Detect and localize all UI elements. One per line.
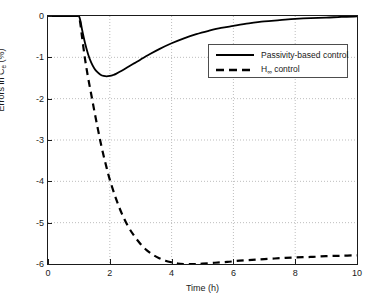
x-tick-label: 2 xyxy=(107,268,112,278)
y-tick-mark xyxy=(47,16,52,17)
legend-label-hinf: H∞ control xyxy=(261,64,300,75)
x-tick-mark xyxy=(110,259,111,264)
legend-label-passivity: Passivity-based control xyxy=(261,50,348,60)
x-tick-label: 8 xyxy=(293,268,298,278)
y-tick-mark xyxy=(47,264,52,265)
y-tick-mark xyxy=(47,99,52,100)
x-axis-label: Time (h) xyxy=(47,283,358,293)
y-axis-label: Errors in Ce (%) xyxy=(0,20,7,140)
y-tick-mark xyxy=(47,223,52,224)
y-tick-label: -2 xyxy=(36,94,44,104)
chart-figure: 0-1-2-3-4-5-60246810 Errors in Ce (%) Ti… xyxy=(0,0,373,308)
y-axis-label-text: Errors in Ce (%) xyxy=(0,48,6,111)
x-tick-mark xyxy=(295,259,296,264)
x-tick-label: 0 xyxy=(45,268,50,278)
legend-swatch-dashed xyxy=(215,64,255,76)
y-tick-mark xyxy=(47,57,52,58)
y-tick-label: -1 xyxy=(36,52,44,62)
x-tick-mark xyxy=(48,259,49,264)
x-tick-mark xyxy=(233,259,234,264)
y-tick-label: -4 xyxy=(36,176,44,186)
x-tick-label: 10 xyxy=(352,268,362,278)
legend-item-hinf: H∞ control xyxy=(209,61,347,78)
y-axis-label-subscript: e xyxy=(0,65,7,69)
x-tick-mark xyxy=(357,259,358,264)
y-tick-label: -3 xyxy=(36,135,44,145)
legend: Passivity-based control H∞ control xyxy=(208,44,348,78)
y-tick-label: 0 xyxy=(39,11,44,21)
legend-swatch-solid xyxy=(215,49,255,61)
y-tick-label: -6 xyxy=(36,259,44,269)
x-tick-mark xyxy=(172,259,173,264)
legend-label-hinf-rest: control xyxy=(272,64,300,74)
x-tick-label: 6 xyxy=(231,268,236,278)
y-tick-mark xyxy=(47,140,52,141)
y-tick-label: -5 xyxy=(36,218,44,228)
x-tick-label: 4 xyxy=(169,268,174,278)
y-tick-mark xyxy=(47,181,52,182)
